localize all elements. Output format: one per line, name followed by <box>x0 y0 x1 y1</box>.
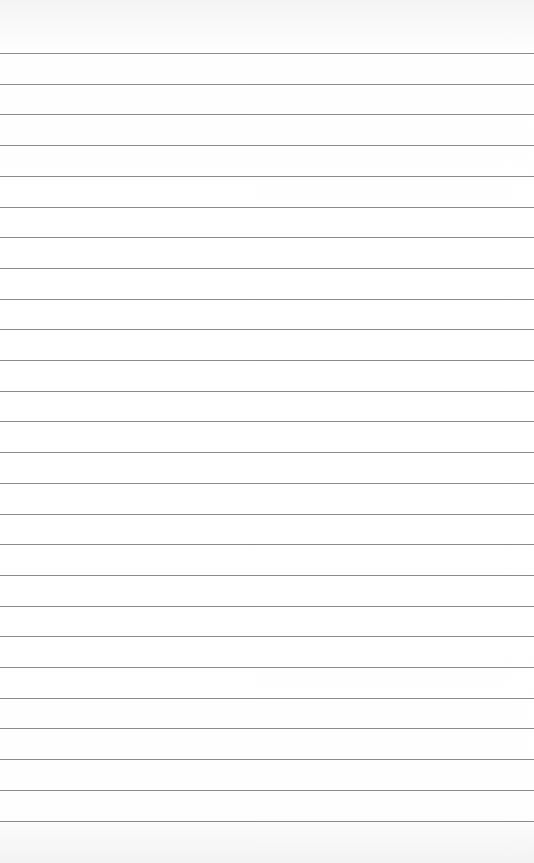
ruled-line <box>0 728 534 729</box>
ruled-line <box>0 514 534 515</box>
ruled-line <box>0 759 534 760</box>
lined-paper <box>0 0 534 863</box>
ruled-line <box>0 391 534 392</box>
ruled-line <box>0 207 534 208</box>
ruled-line <box>0 544 534 545</box>
ruled-line <box>0 329 534 330</box>
ruled-line <box>0 636 534 637</box>
ruled-line <box>0 176 534 177</box>
ruled-line <box>0 575 534 576</box>
ruled-line <box>0 268 534 269</box>
ruled-line <box>0 790 534 791</box>
ruled-line <box>0 606 534 607</box>
ruled-line <box>0 821 534 822</box>
ruled-line <box>0 84 534 85</box>
ruled-line <box>0 145 534 146</box>
ruled-line <box>0 421 534 422</box>
ruled-line <box>0 237 534 238</box>
ruled-line <box>0 53 534 54</box>
ruled-line <box>0 483 534 484</box>
ruled-line <box>0 299 534 300</box>
ruled-line <box>0 698 534 699</box>
ruled-line <box>0 667 534 668</box>
ruled-line <box>0 360 534 361</box>
ruled-line <box>0 114 534 115</box>
ruled-line <box>0 452 534 453</box>
